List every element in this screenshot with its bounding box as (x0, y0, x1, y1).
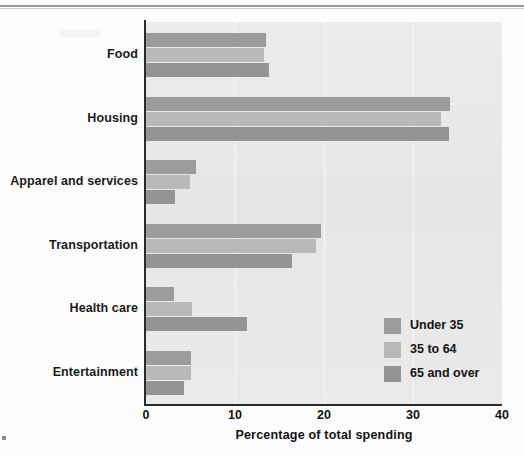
bar (146, 33, 266, 47)
category-label: Housing (0, 111, 138, 125)
legend-swatch-65-and-over (384, 366, 401, 382)
legend-label-65-and-over: 65 and over (410, 366, 479, 380)
bar (146, 302, 192, 316)
bar (146, 287, 174, 301)
category-label: Health care (0, 301, 138, 315)
x-tick-label: 40 (495, 408, 509, 422)
bar (146, 224, 321, 238)
x-tick-label: 10 (228, 408, 242, 422)
gridline-20 (324, 22, 325, 404)
category-label: Food (0, 47, 138, 61)
bar (146, 190, 175, 204)
bar (146, 254, 292, 268)
gridline-10 (235, 22, 236, 404)
bar (146, 112, 441, 126)
page-edge-mark (2, 436, 6, 440)
chart-figure: FoodHousingApparel and servicesTransport… (0, 0, 524, 456)
bar (146, 127, 449, 141)
bar (146, 351, 191, 365)
x-tick-label: 20 (317, 408, 331, 422)
bar (146, 175, 190, 189)
x-axis-line (144, 404, 502, 406)
bar (146, 63, 269, 77)
bar (146, 97, 450, 111)
legend-swatch-under-35 (384, 318, 401, 334)
legend-label-35-to-64: 35 to 64 (410, 342, 457, 356)
bar (146, 48, 264, 62)
legend-label-under-35: Under 35 (410, 318, 464, 332)
bar (146, 317, 247, 331)
header-rule (0, 5, 524, 7)
bar (146, 160, 196, 174)
y-axis-line (144, 20, 146, 406)
bar (146, 366, 191, 380)
category-label: Apparel and services (0, 174, 138, 188)
legend-swatch-35-to-64 (384, 342, 401, 358)
category-label: Transportation (0, 238, 138, 252)
bar (146, 381, 184, 395)
category-label: Entertainment (0, 365, 138, 379)
header-rule-secondary (0, 8, 524, 9)
x-tick-label: 0 (143, 408, 150, 422)
bar (146, 239, 316, 253)
scan-artifact (60, 30, 100, 38)
x-axis-title: Percentage of total spending (146, 428, 502, 442)
x-tick-label: 30 (406, 408, 420, 422)
